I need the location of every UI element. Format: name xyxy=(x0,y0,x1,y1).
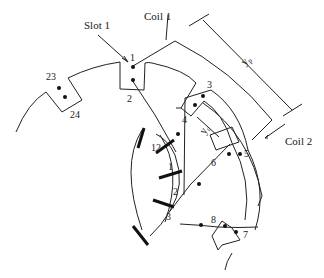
commutator-segment-3: 3 xyxy=(166,211,171,222)
coil-2-label: Coil 2 xyxy=(285,135,312,147)
coil-1-label: Coil 1 xyxy=(144,10,171,22)
slot-1-label: Slot 1 xyxy=(84,19,110,31)
pole-pitch-label: yp xyxy=(238,52,255,69)
commutator-segment-12: 12 xyxy=(151,142,161,153)
commutator-segment-2: 2 xyxy=(173,186,178,197)
pole-pitch-dimension: yp xyxy=(189,14,302,116)
armature-outer-surface xyxy=(16,62,262,270)
slot-number-6: 6 xyxy=(211,157,216,168)
commutator-segment-1: 1 xyxy=(168,161,173,172)
slot-number-23: 23 xyxy=(46,71,56,82)
slot-number-7: 7 xyxy=(243,229,248,240)
leader-lines xyxy=(98,15,285,138)
armature-winding-diagram: yp yc Slot 1 Coil 1 Coil 2 1 2 3 4 5 6 7 xyxy=(0,0,324,278)
slot-number-5: 5 xyxy=(244,148,249,159)
slot-number-1: 1 xyxy=(130,52,135,63)
slot-number-8: 8 xyxy=(211,214,216,225)
commutator-pitch-dimension: yc xyxy=(196,117,219,137)
slot-number-2: 2 xyxy=(127,93,132,104)
slot-number-4: 4 xyxy=(182,114,187,125)
slot-number-3: 3 xyxy=(207,79,212,90)
slot-number-24: 24 xyxy=(70,109,80,120)
conductor-dots xyxy=(57,65,242,234)
